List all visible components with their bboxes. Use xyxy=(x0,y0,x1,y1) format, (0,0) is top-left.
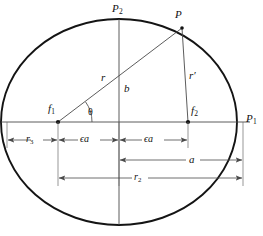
label-dim-a: a xyxy=(189,154,195,165)
radius-vector-r-prime-line xyxy=(182,28,188,122)
label-p1-right-vertex: P1 xyxy=(246,113,257,126)
label-radius-r-prime: r′ xyxy=(189,70,196,81)
label-focus-right-f2: f2 xyxy=(191,105,198,118)
label-radius-r: r xyxy=(101,72,105,83)
label-point-p: P xyxy=(175,9,182,20)
label-dim-r2: r2 xyxy=(134,172,141,184)
label-p2-top-vertex: P2 xyxy=(112,3,123,16)
label-angle-theta: θ xyxy=(88,107,93,117)
label-dim-epsilon-a-right: ϵa xyxy=(144,134,153,144)
figure-canvas xyxy=(0,0,263,236)
label-semi-minor-b: b xyxy=(124,83,130,94)
label-focus-left-f1: f1 xyxy=(48,103,55,116)
ellipse-geometry-figure: P2 P P1 f1 f2 r r′ b θ r3 ϵa ϵa a r2 xyxy=(0,0,263,236)
label-dim-epsilon-a-left: ϵa xyxy=(80,134,89,144)
radius-vector-r-line xyxy=(58,28,182,122)
label-dim-r3: r3 xyxy=(26,134,33,146)
point-p-marker xyxy=(180,26,184,30)
